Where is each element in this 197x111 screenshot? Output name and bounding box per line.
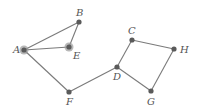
edge-f-d: [69, 67, 117, 92]
node-a: [21, 47, 26, 52]
node-e: [66, 44, 71, 49]
node-label-e: E: [72, 50, 81, 61]
node-label-f: F: [65, 96, 74, 107]
edge-g-d: [117, 67, 151, 91]
node-label-a: A: [12, 44, 20, 55]
node-f: [66, 89, 71, 94]
node-label-b: B: [75, 7, 83, 18]
node-b: [76, 19, 81, 24]
node-c: [129, 37, 134, 42]
node-g: [148, 88, 153, 93]
node-d: [114, 64, 119, 69]
node-label-c: C: [128, 25, 136, 36]
graph-svg: ABEFDCHG: [0, 0, 197, 111]
node-label-d: D: [112, 71, 121, 82]
edge-a-f: [24, 50, 69, 92]
edge-d-c: [117, 40, 132, 67]
node-h: [171, 46, 176, 51]
node-label-h: H: [179, 44, 189, 55]
node-label-g: G: [147, 96, 155, 107]
edge-c-h: [132, 40, 174, 49]
edge-h-g: [151, 49, 174, 91]
graph-diagram: ABEFDCHG: [0, 0, 197, 111]
edges-layer: [24, 22, 174, 92]
edge-a-e: [24, 47, 69, 50]
nodes-layer: [20, 19, 177, 94]
labels-layer: ABEFDCHG: [12, 7, 189, 107]
